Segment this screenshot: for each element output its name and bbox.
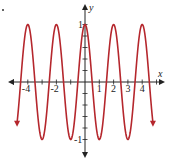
x-tick-label: 2: [111, 83, 116, 94]
curve-right-arrow-icon: [150, 121, 156, 127]
x-tick-label: 4: [140, 83, 145, 94]
y-axis-up-arrow-icon: [82, 4, 88, 10]
y-tick-label: 1: [78, 19, 83, 30]
marker-dot: [2, 9, 4, 11]
y-tick-label: -1: [74, 134, 82, 145]
y-axis-down-arrow-icon: [82, 152, 88, 158]
x-axis-label: x: [157, 68, 163, 79]
cosine-graph: x y -4-212341-1: [0, 0, 169, 162]
y-axis-label: y: [88, 2, 94, 13]
x-axis-right-arrow-icon: [159, 79, 165, 85]
x-tick-label: 3: [125, 83, 130, 94]
x-tick-label: 1: [97, 83, 102, 94]
x-tick-label: -2: [50, 83, 58, 94]
x-tick-label: -4: [22, 83, 30, 94]
curve-left-arrow-icon: [14, 121, 20, 127]
